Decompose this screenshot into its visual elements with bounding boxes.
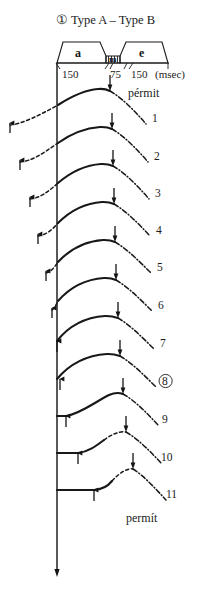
figure-title-text: ① Type A – Type B xyxy=(56,13,155,27)
top-word-label: pérmit xyxy=(128,86,160,100)
vertical-reference-axis xyxy=(54,63,59,577)
row-label-5: 5 xyxy=(157,261,163,273)
segment-shape-a xyxy=(57,42,106,63)
figure-container: ① Type A – Type B a m e xyxy=(0,0,202,604)
duration-unit-label: (msec) xyxy=(155,68,185,81)
stimulus-row-1: 1 xyxy=(10,75,158,133)
segment-duration-diagram: a m e 150 75 150 (msec) xyxy=(56,42,185,81)
row-label-7: 7 xyxy=(160,337,166,349)
row-label-3: 3 xyxy=(155,187,161,199)
row-label-4: 4 xyxy=(156,224,162,236)
stimulus-row-9: 9 xyxy=(57,378,168,427)
stimulus-row-5: 5 xyxy=(46,226,163,281)
row-label-10: 10 xyxy=(161,451,173,463)
stimulus-row-2: 2 xyxy=(20,113,160,170)
segment-label-m: m xyxy=(109,54,117,64)
row-label-1: 1 xyxy=(152,112,158,124)
segment-label-a: a xyxy=(75,46,81,60)
axis-arrowhead xyxy=(54,569,59,577)
duration-label-e: 150 xyxy=(131,68,148,80)
row-label-11: 11 xyxy=(166,488,177,500)
duration-label-m: 75 xyxy=(110,68,122,80)
row-label-2: 2 xyxy=(154,150,160,162)
bottom-word-label: permít xyxy=(126,511,158,525)
row-10-fall-arrowhead xyxy=(124,426,129,433)
segment-label-e: e xyxy=(139,46,145,60)
stimulus-row-6: 6 xyxy=(52,264,164,318)
figure-title: ① Type A – Type B xyxy=(56,13,155,27)
duration-label-a: 150 xyxy=(62,68,79,80)
row-label-6: 6 xyxy=(158,299,164,311)
pitch-contour-figure: ① Type A – Type B a m e xyxy=(0,0,202,604)
row-label-8: 8 xyxy=(162,375,168,387)
row-11-fall-arrowhead xyxy=(131,463,136,470)
stimulus-row-8: 8 xyxy=(57,340,172,390)
row-label-9: 9 xyxy=(162,413,168,425)
stimulus-row-3: 3 xyxy=(30,150,161,207)
